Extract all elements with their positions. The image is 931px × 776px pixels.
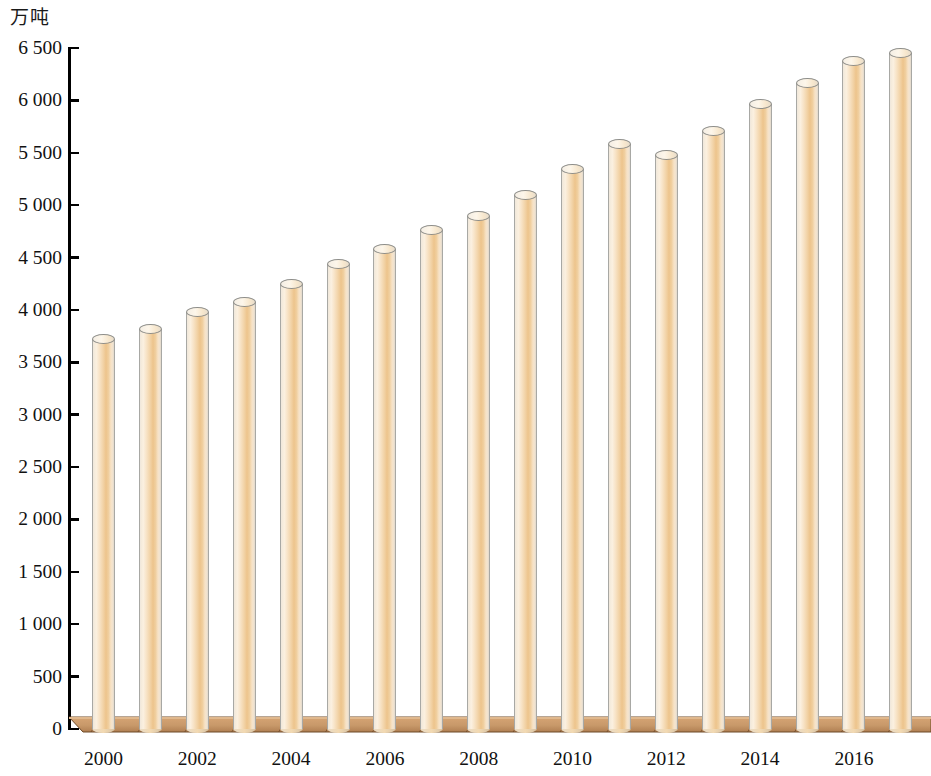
bar-top-ellipse (280, 279, 303, 289)
y-axis-tick (68, 204, 79, 207)
bar-body (749, 104, 772, 729)
bar-body (139, 329, 162, 729)
y-axis-tick-label: 1 500 (0, 561, 62, 583)
x-axis-tick-label: 2002 (178, 748, 217, 770)
bar (373, 244, 396, 729)
bar-body (889, 53, 912, 729)
y-axis-tick (68, 675, 79, 678)
bar (514, 190, 537, 729)
bar (842, 56, 865, 729)
y-axis-tick-label: 2 500 (0, 456, 62, 478)
x-axis-tick-label: 2010 (553, 748, 592, 770)
y-axis-tick-label: 5 000 (0, 194, 62, 216)
y-axis-tick (68, 99, 79, 102)
y-axis-tick (68, 256, 79, 259)
y-axis-tick-label: 1 000 (0, 613, 62, 635)
bar-top-ellipse (702, 126, 725, 136)
bar-top-ellipse (842, 56, 865, 66)
bar-top-ellipse (233, 297, 256, 307)
bar (796, 78, 819, 729)
bar (186, 307, 209, 729)
bar (889, 48, 912, 729)
bar-body (373, 249, 396, 729)
bar-body (327, 264, 350, 729)
x-axis-tick-label: 2012 (647, 748, 686, 770)
bar-body (467, 216, 490, 729)
bar-top-ellipse (186, 307, 209, 317)
bar (280, 279, 303, 729)
bar (655, 150, 678, 729)
bar-body (655, 155, 678, 729)
bar-body (561, 169, 584, 730)
bar-top-ellipse (467, 211, 490, 221)
x-axis-tick-label: 2004 (272, 748, 311, 770)
bar (327, 259, 350, 729)
bar-top-ellipse (749, 99, 772, 109)
y-axis-tick (68, 309, 79, 312)
y-axis-tick (68, 413, 79, 416)
bar-top-ellipse (796, 78, 819, 88)
bar (749, 99, 772, 729)
bar-body (280, 284, 303, 729)
bar (233, 297, 256, 729)
x-axis-tick-label: 2016 (834, 748, 873, 770)
y-axis-tick (68, 466, 79, 469)
y-axis-tick-label: 2 000 (0, 508, 62, 530)
y-axis-tick (68, 47, 79, 50)
x-axis-tick-label: 2006 (365, 748, 404, 770)
y-axis-tick-label: 0 (0, 718, 62, 740)
y-axis-tick-label: 6 000 (0, 89, 62, 111)
bar-top-ellipse (655, 150, 678, 160)
y-axis-tick (68, 518, 79, 521)
x-axis-tick-label: 2000 (84, 748, 123, 770)
bar-top-ellipse (327, 259, 350, 269)
bar-body (842, 61, 865, 729)
y-axis-tick-label: 4 000 (0, 299, 62, 321)
y-axis-tick (68, 152, 79, 155)
x-axis-tick-label: 2014 (741, 748, 780, 770)
bar-body (92, 339, 115, 729)
y-axis-tick-label: 3 500 (0, 351, 62, 373)
bar-top-ellipse (561, 164, 584, 174)
x-axis-tick-label: 2008 (459, 748, 498, 770)
bar-top-ellipse (514, 190, 537, 200)
plot-area: 05001 0001 5002 0002 5003 0003 5004 0004… (0, 0, 931, 776)
bar-body (514, 195, 537, 729)
y-axis-tick-label: 6 500 (0, 37, 62, 59)
bar (608, 139, 631, 729)
bar-body (796, 83, 819, 729)
bar-body (186, 312, 209, 729)
bar (467, 211, 490, 729)
y-axis-tick-label: 5 500 (0, 142, 62, 164)
y-axis-tick-label: 500 (0, 666, 62, 688)
bar-top-ellipse (139, 324, 162, 334)
bar-body (608, 144, 631, 729)
bar-chart: 万吨 05001 0001 5002 0002 5003 0003 5004 0… (0, 0, 931, 776)
y-axis-tick (68, 623, 79, 626)
bar-body (233, 302, 256, 729)
y-axis-tick-label: 4 500 (0, 247, 62, 269)
bar (702, 126, 725, 729)
y-axis-tick-label: 3 000 (0, 404, 62, 426)
y-axis-tick (68, 571, 79, 574)
bar (420, 225, 443, 729)
bar-body (420, 230, 443, 729)
bar (92, 334, 115, 729)
bar-body (702, 131, 725, 729)
y-axis-line (68, 48, 71, 729)
bar (561, 164, 584, 730)
bar (139, 324, 162, 729)
y-axis-tick (68, 361, 79, 364)
